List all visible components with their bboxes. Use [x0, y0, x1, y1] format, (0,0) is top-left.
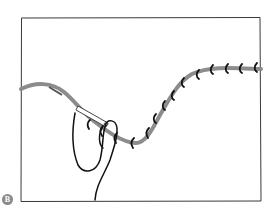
thread — [73, 113, 117, 200]
step-badge: B — [2, 194, 13, 205]
seam-line — [21, 68, 261, 143]
fabric-frame — [21, 18, 261, 202]
needle-icon — [76, 106, 108, 127]
sewing-diagram — [0, 0, 273, 212]
